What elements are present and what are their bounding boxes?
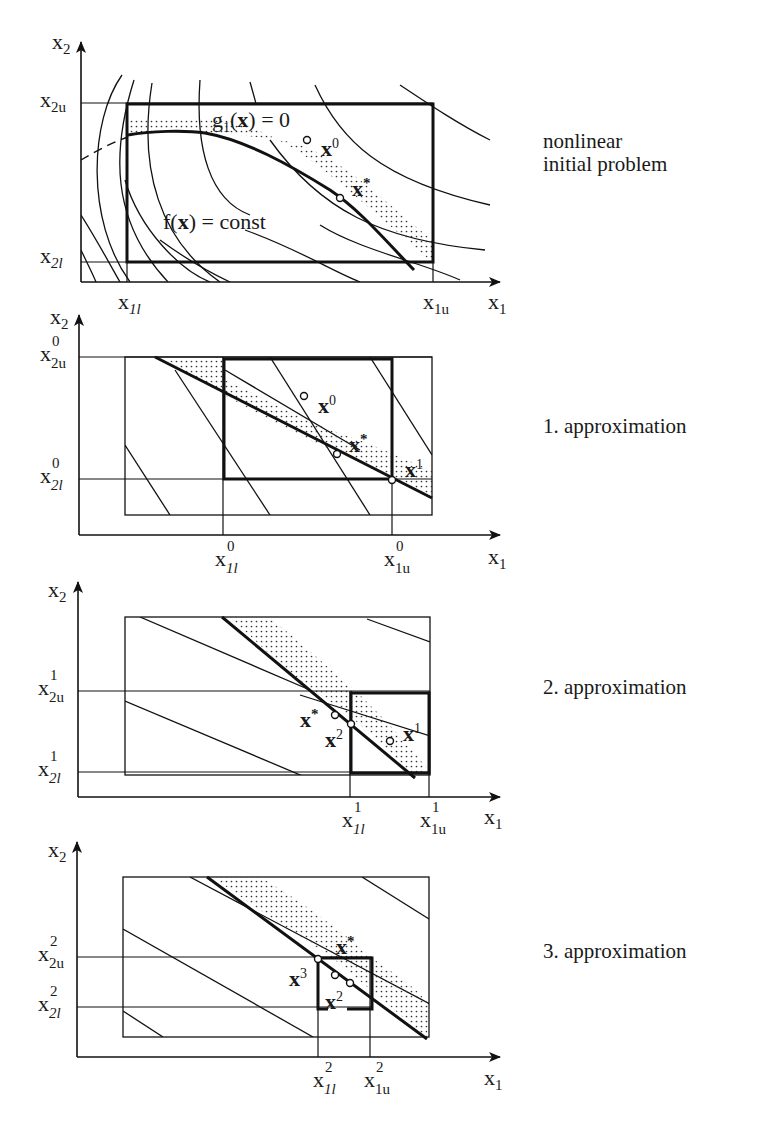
label-xstar: x* [352,176,371,200]
label-x2: x2 [325,990,343,1013]
panel-initial [81,42,500,282]
label-x0: x0 [321,137,339,160]
panel-approx3 [77,842,500,1057]
tick-x1u-1: x11u [420,808,446,831]
label-xstar: x* [349,432,368,456]
tick-x1l-1: x11l [342,808,365,831]
label-x0: x0 [318,394,336,417]
tick-x2l: x2l [40,244,63,272]
caption-initial: nonlinear initial problem [543,130,667,176]
label-x1: x1 [403,722,421,745]
x-axis-label: x1 [488,545,507,573]
tick-x2u: x2u [40,88,66,116]
y-axis-label: x2 [50,305,69,333]
caption-approx1: 1. approximation [543,415,686,438]
x-axis-label: x1 [484,805,503,833]
panel-approx2 [78,582,500,797]
label-xstar: x* [300,707,319,731]
point-x0 [304,137,311,144]
label-x2: x2 [325,728,343,751]
label-xstar: x* [336,934,355,958]
tick-x2u-0: x02u [40,342,66,365]
tick-x1u-0: x01u [384,547,410,570]
x-axis-label: x1 [488,290,507,318]
tick-x2l-0: x02l [40,464,63,487]
constraint-label: g1(x) = 0 [212,108,290,136]
tick-x1l: x1l [118,290,141,318]
tick-x2u-1: x12u [38,676,64,699]
tick-x1u: x1u [423,290,449,318]
tick-x2l-2: x22l [38,992,61,1015]
y-axis-label: x2 [48,838,67,866]
objective-label: f(x) = const [163,210,266,233]
y-axis-label: x2 [52,30,71,58]
tick-x2l-1: x12l [38,757,61,780]
panel-approx1 [79,315,500,535]
x-axis-label: x1 [484,1066,503,1094]
tick-x2u-2: x22u [38,942,64,965]
caption-approx2: 2. approximation [543,676,686,699]
label-x1: x1 [405,458,423,481]
caption-approx3: 3. approximation [543,940,686,963]
y-axis-label: x2 [48,578,67,606]
tick-x1u-2: x21u [364,1068,390,1091]
label-x3: x3 [289,967,307,990]
tick-x1l-2: x21l [313,1068,336,1091]
tick-x1l-0: x01l [215,547,238,570]
point-xstar [337,195,344,202]
